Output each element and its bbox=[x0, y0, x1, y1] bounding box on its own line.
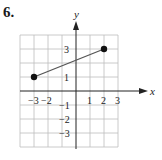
x-tick-label: 1 bbox=[87, 95, 92, 106]
y-tick-label: 3 bbox=[64, 44, 69, 55]
x-tick-label: 2 bbox=[101, 95, 106, 106]
x-tick-label: −2 bbox=[41, 95, 52, 106]
y-tick-label: 1 bbox=[64, 72, 69, 83]
coordinate-plane: x y −3 −2 1 2 3 3 1 −1 −2 −3 bbox=[0, 0, 162, 160]
y-tick-label: −1 bbox=[59, 100, 70, 111]
endpoint-marker bbox=[101, 46, 107, 52]
x-tick-label: 3 bbox=[115, 95, 120, 106]
x-axis-arrow-icon bbox=[139, 88, 148, 94]
y-tick-label: −2 bbox=[59, 114, 70, 125]
axes bbox=[20, 27, 142, 149]
y-axis-arrow-icon bbox=[73, 21, 79, 30]
y-axis-label: y bbox=[73, 8, 79, 20]
endpoint-marker bbox=[31, 74, 37, 80]
x-axis-label: x bbox=[149, 85, 155, 97]
x-tick-label: −3 bbox=[28, 95, 39, 106]
y-tick-label: −3 bbox=[59, 128, 70, 139]
